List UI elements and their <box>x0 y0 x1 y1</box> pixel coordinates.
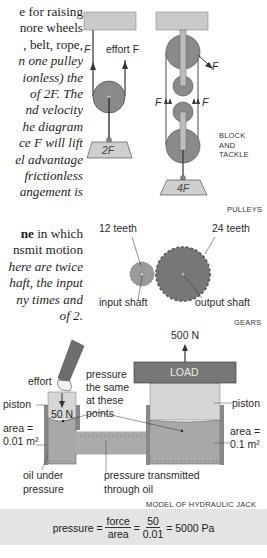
oil-line: pressure <box>23 482 64 496</box>
small-gear-teeth-label: 12 teeth <box>99 222 137 234</box>
denominator: 0.01 <box>143 528 163 540</box>
small-force-label: 50 N <box>51 408 73 420</box>
formula-eq: = <box>134 522 140 534</box>
pressure-note: pressure the same at these points <box>86 368 129 420</box>
oil-label: oil under pressure <box>23 468 64 496</box>
single-pulley-effort-label: effort F <box>106 43 139 55</box>
pressure-formula-panel: pressure = force area = 50 0.01 = 5000 P… <box>0 509 267 545</box>
formula-fraction-force-area: force area <box>105 515 130 540</box>
area-line: area = <box>230 425 260 438</box>
gears-diagram <box>130 237 215 301</box>
single-pulley-F-label: F <box>84 43 90 55</box>
output-shaft-label: output shaft <box>195 296 250 308</box>
small-piston-label: piston <box>3 398 31 410</box>
effort-label: effort <box>28 375 52 387</box>
caption-line: TACKLE <box>219 150 249 160</box>
pulleys-caption: PULLEYS <box>227 205 262 214</box>
formula-eq: = <box>166 522 172 534</box>
small-area-label: area = 0.01 m² <box>3 422 39 448</box>
hydraulic-jack-diagram <box>36 340 236 472</box>
caption-line: AND <box>219 141 249 151</box>
area-line: 0.1 m² <box>230 438 260 451</box>
formula-lhs: pressure <box>53 522 94 534</box>
formula-fraction-values: 50 0.01 <box>143 515 163 540</box>
formula: pressure = force area = 50 0.01 = 5000 P… <box>0 515 267 540</box>
large-area-label: area = 0.1 m² <box>230 425 260 451</box>
hydraulic-caption: MODEL OF HYDRAULIC JACK <box>146 500 256 509</box>
large-force-label: 500 N <box>171 329 199 341</box>
large-gear <box>156 247 210 301</box>
transmit-line: pressure transmitted <box>104 468 200 482</box>
single-pulley-diagram <box>84 12 136 158</box>
block-tackle-load-label: 4F <box>177 182 189 194</box>
note-line: points <box>86 407 129 420</box>
large-piston-label: piston <box>232 397 260 409</box>
formula-result: 5000 Pa <box>175 522 214 534</box>
note-line: the same <box>86 381 129 394</box>
single-pulley-load-label: 2F <box>102 144 114 156</box>
note-line: pressure <box>86 368 129 381</box>
denominator: area <box>108 528 129 540</box>
block-tackle-F-right-label: F <box>202 96 208 108</box>
transmit-label: pressure transmitted through oil <box>104 468 200 496</box>
gears-caption: GEARS <box>234 318 261 327</box>
block-tackle-F-out-label: F <box>212 60 218 72</box>
block-tackle-caption: BLOCK AND TACKLE <box>219 131 249 160</box>
caption-line: BLOCK <box>219 131 249 141</box>
formula-eq: = <box>96 522 102 534</box>
oil-line: oil under <box>23 468 64 482</box>
note-line: at these <box>86 394 129 407</box>
area-line: area = <box>3 422 39 435</box>
block-tackle-F-left-label: F <box>155 96 161 108</box>
area-line: 0.01 m² <box>3 435 39 448</box>
transmit-line: through oil <box>104 482 200 496</box>
load-label: LOAD <box>170 366 199 378</box>
large-gear-teeth-label: 24 teeth <box>212 222 250 234</box>
input-shaft-label: input shaft <box>99 296 147 308</box>
small-gear <box>130 262 154 286</box>
numerator: 50 <box>146 515 160 528</box>
numerator: force <box>105 515 130 528</box>
